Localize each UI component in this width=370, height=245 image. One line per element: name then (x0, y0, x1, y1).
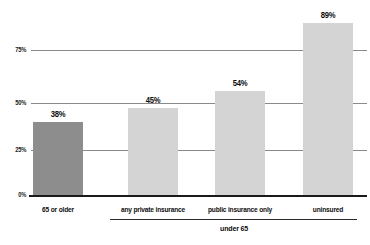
bar-uninsured (303, 23, 353, 195)
group-label-under-65: under 65 (199, 224, 269, 233)
group-bracket-under-65 (110, 219, 357, 220)
x-axis-label-uninsured: uninsured (293, 205, 363, 214)
y-axis-tick-0: 0% (5, 191, 26, 198)
x-axis-label-any-private-insurance: any private insurance (118, 205, 188, 214)
x-axis-label-public-insurance-only: public insurance only (205, 205, 275, 214)
y-axis-tick-75: 75% (5, 46, 26, 53)
bar-value-65-or-older: 38% (37, 109, 80, 119)
bar-any-private-insurance (128, 108, 178, 195)
y-axis-tick-25: 25% (5, 146, 26, 153)
plot-area: 75% 50% 25% 0% 38% 45% 54% 89% 65 or old… (0, 0, 370, 245)
y-axis-tick-50: 50% (5, 99, 26, 106)
bar-value-public-insurance-only: 54% (219, 78, 262, 88)
bar-public-insurance-only (215, 91, 265, 195)
bar-65-or-older (33, 122, 83, 196)
bar-value-any-private-insurance: 45% (132, 95, 175, 105)
bar-value-uninsured: 89% (307, 10, 350, 20)
bar-chart: 75% 50% 25% 0% 38% 45% 54% 89% 65 or old… (0, 0, 370, 245)
x-axis-label-65-or-older: 65 or older (23, 205, 93, 214)
x-axis-baseline (29, 195, 367, 197)
